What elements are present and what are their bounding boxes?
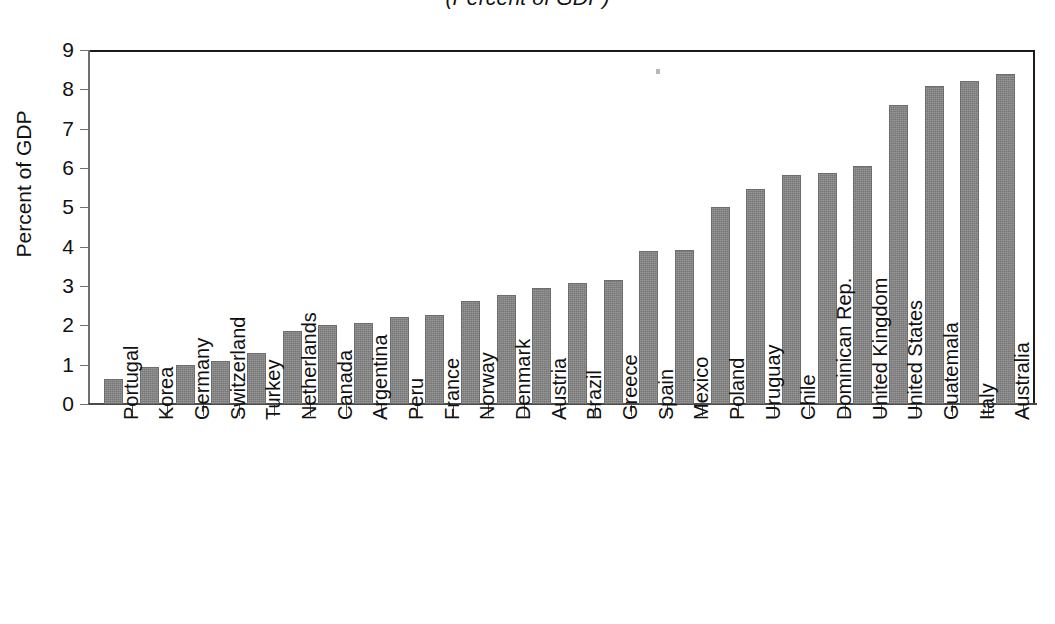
bar — [960, 81, 979, 404]
x-axis-category-label: Italy — [977, 383, 997, 420]
y-axis-tick-label-text: 4 — [0, 236, 74, 257]
x-axis-category-label: Poland — [727, 358, 747, 420]
y-axis-tick-label-text: 9 — [0, 39, 74, 60]
x-axis-category-label: Guatemala — [941, 322, 961, 420]
x-axis-category-label: Canada — [335, 350, 355, 420]
scan-artifact-speck — [656, 69, 660, 74]
x-axis-category-label: Austria — [549, 358, 569, 420]
y-axis-tick-label: 6 — [0, 157, 74, 179]
y-axis-tick-label-text: 0 — [0, 393, 74, 414]
y-axis-tick-label: 8 — [0, 78, 74, 100]
x-axis-category-label: Brazil — [584, 370, 604, 420]
x-axis-category-label: Switzerland — [228, 317, 248, 420]
x-axis-category-label: Korea — [156, 367, 176, 420]
y-axis-tick-label: 7 — [0, 118, 74, 140]
x-axis-category-label: United States — [905, 300, 925, 420]
x-axis-category-label: Peru — [406, 378, 426, 420]
x-axis-category-label: Portugal — [121, 346, 141, 421]
x-axis-category-label: Argentina — [370, 334, 390, 420]
y-axis-tick-label: 0 — [0, 393, 74, 415]
x-axis-category-label: Norway — [477, 352, 497, 420]
x-axis-category-label: Greece — [620, 354, 640, 420]
x-axis-category-label: Dominican Rep. — [834, 278, 854, 420]
x-axis-category-label: Turkey — [263, 360, 283, 420]
y-axis-tick-label: 9 — [0, 39, 74, 61]
y-axis-tick-label: 2 — [0, 314, 74, 336]
x-axis-category-label: Australia — [1012, 342, 1032, 420]
y-axis-tick-label-text: 3 — [0, 275, 74, 296]
y-axis-tick-label: 1 — [0, 354, 74, 376]
x-axis-category-label: France — [442, 358, 462, 420]
y-axis-tick-label: 3 — [0, 275, 74, 297]
chart-page: (Percent of GDP) Percent of GDP 01234567… — [0, 0, 1055, 624]
y-axis-tick-label: 4 — [0, 236, 74, 258]
x-axis-category-label: Spain — [656, 369, 676, 420]
y-axis-tick-label-text: 5 — [0, 196, 74, 217]
y-axis-tick-label-text: 7 — [0, 118, 74, 139]
y-axis-tick-label: 5 — [0, 196, 74, 218]
x-axis-category-label: Netherlands — [299, 312, 319, 420]
y-axis-tick-label-text: 6 — [0, 157, 74, 178]
x-axis-category-label: Uruguay — [763, 344, 783, 420]
bar — [782, 175, 801, 404]
x-axis-category-label: United Kingdom — [870, 278, 890, 420]
x-axis-category-label: Chile — [798, 374, 818, 420]
chart-title: (Percent of GDP) — [0, 0, 1055, 10]
x-axis-category-label: Denmark — [513, 339, 533, 420]
y-axis-tick-label-text: 1 — [0, 354, 74, 375]
y-axis-tick-label-text: 8 — [0, 78, 74, 99]
y-axis-tick — [80, 404, 89, 405]
y-axis-tick-label-text: 2 — [0, 314, 74, 335]
x-axis-category-label: Mexico — [691, 357, 711, 420]
x-axis-category-label: Germany — [192, 338, 212, 420]
